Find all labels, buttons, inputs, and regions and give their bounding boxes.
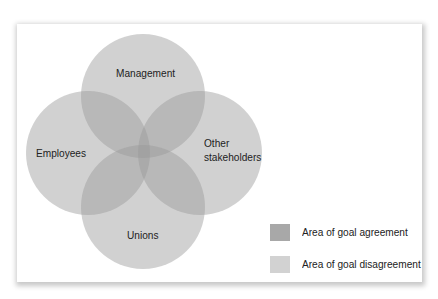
label-employees: Employees (36, 146, 86, 160)
legend-label-agreement: Area of goal agreement (302, 226, 408, 238)
legend-label-disagreement: Area of goal disagreement (302, 258, 421, 270)
legend-swatch-agreement (270, 224, 290, 241)
legend-swatch-disagreement (270, 256, 290, 273)
label-unions: Unions (127, 228, 159, 242)
circle-unions (81, 145, 205, 269)
label-other-line1: Other (204, 136, 229, 150)
label-management: Management (116, 66, 175, 80)
label-other-line2: stakeholders (204, 150, 261, 164)
